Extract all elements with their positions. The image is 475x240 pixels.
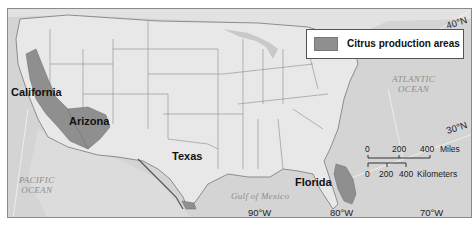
state-label-texas: Texas (172, 150, 202, 162)
longitude-80-label: 80°W (330, 207, 353, 218)
state-label-california: California (11, 86, 62, 98)
pacific-ocean-label: PACIFIC OCEAN (19, 175, 54, 195)
longitude-90-label: 90°W (248, 207, 271, 218)
scale-km-200: 200 (379, 169, 393, 179)
legend-label: Citrus production areas (347, 38, 460, 49)
scale-miles-unit: Miles (440, 144, 460, 154)
scale-bar: 0 200 400 Miles 0 200 400 Kilometers (360, 141, 470, 187)
scale-miles-200: 200 (392, 144, 406, 154)
scale-km-0: 0 (365, 169, 370, 179)
atlantic-ocean-label: ATLANTIC OCEAN (392, 74, 435, 94)
scale-km-unit: Kilometers (417, 169, 457, 179)
scale-km-400: 400 (399, 169, 413, 179)
state-label-florida: Florida (295, 176, 332, 188)
citrus-swatch (314, 37, 338, 51)
scale-miles-0: 0 (365, 144, 370, 154)
gulf-of-mexico-label: Gulf of Mexico (231, 191, 289, 201)
longitude-70-label: 70°W (420, 207, 443, 218)
map-legend: Citrus production areas (306, 29, 464, 59)
state-label-arizona: Arizona (69, 115, 109, 127)
scale-miles-400: 400 (420, 144, 434, 154)
